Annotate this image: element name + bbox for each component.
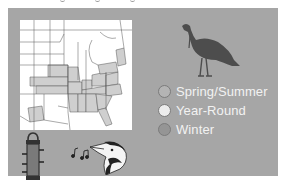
spring-summer-swatch-icon xyxy=(158,85,171,98)
legend-label: Year-Round xyxy=(176,103,246,118)
legend-item-spring-summer: Spring/Summer xyxy=(158,82,268,101)
woodpecker-head-icon xyxy=(90,139,130,175)
legend-label: Winter xyxy=(176,122,214,137)
legend-label: Spring/Summer xyxy=(176,84,268,99)
year-round-swatch-icon xyxy=(158,104,171,117)
tube-feeder-icon xyxy=(18,132,48,182)
range-info-panel: Spring/Summer Year-Round Winter xyxy=(8,8,278,176)
legend-item-year-round: Year-Round xyxy=(158,101,268,120)
season-legend: Spring/Summer Year-Round Winter xyxy=(158,82,268,139)
range-map xyxy=(20,20,132,130)
clipped-heading xyxy=(0,0,289,8)
winter-swatch-icon xyxy=(158,123,171,136)
legend-item-winter: Winter xyxy=(158,120,268,139)
turkey-silhouette-icon xyxy=(176,22,242,78)
us-map-icon xyxy=(20,20,132,130)
music-notes-icon xyxy=(70,146,92,160)
